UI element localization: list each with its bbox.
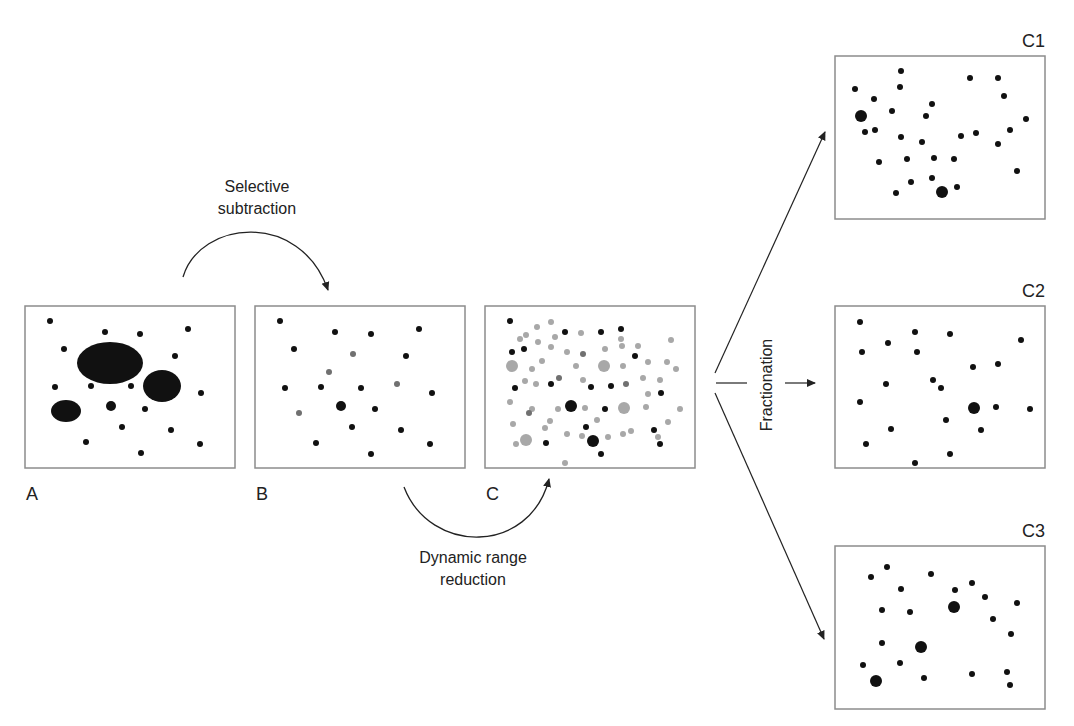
spot xyxy=(598,329,604,335)
panel-label-c: C xyxy=(486,484,499,504)
spot xyxy=(860,662,866,668)
spot xyxy=(291,346,297,352)
spot xyxy=(871,96,877,102)
spot xyxy=(884,564,890,570)
spot xyxy=(951,156,957,162)
spot xyxy=(928,571,934,577)
spot xyxy=(898,586,904,592)
spot xyxy=(857,399,863,405)
spot xyxy=(1014,600,1020,606)
spot xyxy=(879,607,885,613)
spot xyxy=(106,401,116,411)
spot xyxy=(904,156,910,162)
spot xyxy=(948,601,960,613)
spot xyxy=(580,377,586,383)
spot xyxy=(897,660,903,666)
spot xyxy=(885,340,891,346)
selective-subtraction-label-line2: subtraction xyxy=(218,200,296,217)
spot xyxy=(168,427,174,433)
spot xyxy=(908,179,914,185)
spot xyxy=(628,428,634,434)
spot xyxy=(594,417,600,423)
spot xyxy=(197,441,203,447)
spot xyxy=(372,406,378,412)
spot xyxy=(1004,669,1010,675)
spot xyxy=(1014,168,1020,174)
spot xyxy=(358,385,364,391)
spot xyxy=(520,434,532,446)
spot xyxy=(947,451,953,457)
spot xyxy=(47,318,53,324)
spot xyxy=(883,381,889,387)
spot xyxy=(930,377,936,383)
spot xyxy=(198,390,204,396)
spot xyxy=(533,381,539,387)
spot xyxy=(643,404,649,410)
spot xyxy=(526,410,532,416)
spot xyxy=(898,68,904,74)
spot xyxy=(102,329,108,335)
spot xyxy=(973,130,979,136)
spot xyxy=(394,381,400,387)
dynamic-range-reduction-arrow xyxy=(404,479,549,537)
spot xyxy=(947,331,953,337)
spot xyxy=(912,329,918,335)
spot xyxy=(588,384,594,390)
spot xyxy=(623,381,629,387)
spot xyxy=(852,86,858,92)
spot xyxy=(620,363,626,369)
spot xyxy=(677,406,683,412)
spot xyxy=(403,353,409,359)
spot xyxy=(326,369,332,375)
spot xyxy=(619,343,625,349)
large-spot xyxy=(143,370,181,402)
spot xyxy=(529,366,535,372)
spot xyxy=(655,434,661,440)
spot xyxy=(923,113,929,119)
spot xyxy=(1008,631,1014,637)
spot xyxy=(897,84,903,90)
spot xyxy=(548,344,554,350)
spot xyxy=(509,349,515,355)
spot xyxy=(1027,406,1033,412)
spot xyxy=(507,399,513,405)
spot xyxy=(562,460,568,466)
spot xyxy=(332,329,338,335)
spot xyxy=(510,421,516,427)
spot xyxy=(318,384,324,390)
spot xyxy=(185,326,191,332)
spot xyxy=(583,424,589,430)
spot xyxy=(645,391,651,397)
spot xyxy=(556,375,562,381)
spot xyxy=(969,580,975,586)
panel-label-c1: C1 xyxy=(1022,31,1045,51)
spot xyxy=(282,385,288,391)
spot xyxy=(969,671,975,677)
large-spot xyxy=(51,400,81,422)
spot xyxy=(543,440,549,446)
spot xyxy=(539,358,545,364)
spot xyxy=(602,346,608,352)
spot xyxy=(967,75,973,81)
spot xyxy=(618,326,624,332)
spot xyxy=(564,431,570,437)
spot xyxy=(552,334,558,340)
spot xyxy=(952,587,958,593)
spot xyxy=(912,460,918,466)
spot xyxy=(855,110,867,122)
spot xyxy=(995,361,1001,367)
spot xyxy=(938,385,944,391)
spot xyxy=(564,349,570,355)
spot xyxy=(608,383,614,389)
spot xyxy=(665,419,671,425)
spot xyxy=(429,390,435,396)
spot xyxy=(507,318,513,324)
spot xyxy=(555,406,561,412)
panel-c3 xyxy=(835,546,1045,709)
spot xyxy=(620,431,626,437)
spot xyxy=(562,329,568,335)
panel-label-b: B xyxy=(256,484,268,504)
spot xyxy=(954,184,960,190)
fractionation-arrow-c1 xyxy=(715,132,825,373)
dynamic-range-label-line2: reduction xyxy=(440,571,506,588)
